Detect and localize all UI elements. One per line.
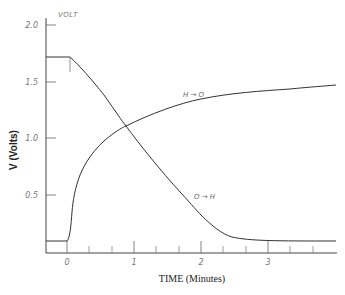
label-h-to-o: H → O bbox=[183, 91, 205, 99]
unit-annotation: VOLT bbox=[58, 11, 78, 19]
label-o-to-h: O → H bbox=[194, 193, 216, 201]
y-axis-title: V (Volts) bbox=[8, 130, 19, 170]
voltage-time-chart: 2.0 1.5 1.0 0.5 0 1 2 3 VOLT TIME (Minut… bbox=[0, 0, 345, 295]
x-tick-label: 2 bbox=[198, 258, 203, 267]
x-tick-label: 1 bbox=[131, 258, 136, 267]
x-tick-label: 0 bbox=[64, 258, 69, 267]
x-tick-label: 3 bbox=[265, 258, 270, 267]
y-tick-label: 1.5 bbox=[25, 78, 38, 87]
y-tick-label: 1.0 bbox=[25, 134, 38, 143]
x-axis-title: TIME (Minutes) bbox=[159, 273, 225, 285]
curve-o-to-h bbox=[46, 57, 336, 241]
curve-h-to-o bbox=[46, 85, 336, 241]
x-ticks-major bbox=[67, 241, 268, 253]
y-tick-label: 2.0 bbox=[25, 21, 38, 30]
y-ticks bbox=[46, 25, 56, 195]
y-tick-label: 0.5 bbox=[25, 191, 38, 200]
